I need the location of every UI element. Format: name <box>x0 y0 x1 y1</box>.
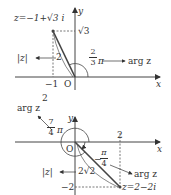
x-tick-2: 2 <box>117 131 123 140</box>
point-z-label-2: z=2−2i <box>122 183 156 192</box>
modulus-value-2: 2√2 <box>78 167 95 176</box>
arg-arrow-right <box>110 165 132 174</box>
origin-label-2: O <box>66 145 73 154</box>
x-axis-label: x <box>156 80 161 89</box>
point-z-label: z=−1+√3 i <box>14 14 64 23</box>
stray-label: 2 <box>42 94 48 103</box>
modulus-label: |z| <box>17 54 28 63</box>
x-tick-neg1: −1 <box>45 80 58 89</box>
y-axis-label: y <box>78 7 83 16</box>
origin-label: O <box>64 80 71 89</box>
modulus-label-2: |z| <box>42 168 53 177</box>
angle2-fraction: π 4 <box>100 149 108 168</box>
angle-fraction: 2 3 <box>89 48 97 67</box>
point-z <box>52 30 55 33</box>
angle1-fraction: 7 4 <box>47 118 55 137</box>
modulus-value: 2 <box>56 53 62 62</box>
y-axis-label-2: y <box>68 114 73 123</box>
y-tick-sqrt3: √3 <box>78 27 89 36</box>
arg-label-right: arg z <box>134 170 157 179</box>
x-axis-label-2: x <box>157 145 162 154</box>
angle-arc-neg <box>82 142 85 149</box>
angle-pi: π <box>98 57 104 66</box>
arg-label-top: arg z <box>17 104 40 113</box>
angle1-pi: π <box>57 126 63 135</box>
y-tick-neg2: −2 <box>61 183 74 192</box>
vector-z-2 <box>75 142 120 187</box>
arg-label: arg z <box>128 57 151 66</box>
